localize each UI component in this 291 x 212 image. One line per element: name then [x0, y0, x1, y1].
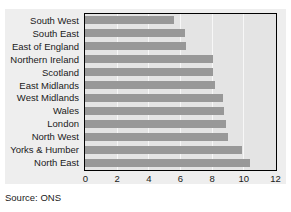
y-axis-label: East Midlands: [19, 81, 79, 91]
bar: [85, 42, 186, 50]
x-axis-tick-label: 0: [83, 173, 88, 184]
x-axis-tick-label: 10: [239, 173, 250, 184]
y-axis-label: Yorks & Humber: [10, 145, 79, 155]
bar: [85, 159, 250, 167]
x-axis-tick-label: 12: [270, 173, 281, 184]
y-axis-label: Wales: [53, 106, 79, 116]
bar: [85, 68, 213, 76]
bar: [85, 94, 223, 102]
y-axis-label: North West: [32, 132, 79, 142]
y-axis-label: Scotland: [42, 68, 79, 78]
bar: [85, 81, 215, 89]
y-axis-category-labels: South WestSouth EastEast of EnglandNorth…: [0, 13, 81, 171]
y-axis-label: South West: [30, 16, 79, 26]
x-axis-tick-label: 4: [146, 173, 151, 184]
y-axis-label: East of England: [12, 42, 79, 52]
y-axis-label: West Midlands: [17, 93, 79, 103]
x-axis-tick-labels: 024681012: [0, 173, 291, 187]
x-axis-tick-label: 6: [178, 173, 183, 184]
bar: [85, 29, 185, 37]
y-axis-label: London: [47, 119, 79, 129]
bar: [85, 107, 224, 115]
bar: [85, 16, 174, 24]
bar: [85, 146, 242, 154]
bar: [85, 55, 213, 63]
x-axis-tick-label: 8: [210, 173, 215, 184]
bars-layer: [85, 14, 276, 170]
bar: [85, 133, 228, 141]
y-axis-label: South East: [33, 29, 79, 39]
bar: [85, 120, 226, 128]
x-axis-tick-label: 2: [115, 173, 120, 184]
chart-figure: South WestSouth EastEast of EnglandNorth…: [0, 0, 291, 212]
source-note: Source: ONS: [5, 192, 61, 203]
plot-area: [84, 13, 277, 171]
y-axis-label: North East: [34, 158, 79, 168]
y-axis-label: Northern Ireland: [10, 55, 79, 65]
